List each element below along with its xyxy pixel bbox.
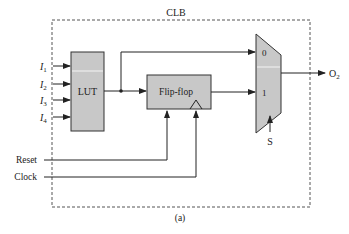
mux-block: 0 1 [256,34,281,133]
input-i3-label: I3 [39,95,47,108]
flipflop-label: Flip-flop [159,87,193,97]
figure-caption: (a) [175,213,186,224]
mux-input-0-label: 0 [262,48,267,58]
input-i1-label: I1 [39,61,47,74]
clock-label: Clock [14,172,37,182]
lut-label: LUT [78,86,97,97]
input-i2: I2 [39,79,70,92]
clb-title: CLB [166,7,186,18]
output-o2-label: O2 [329,68,340,81]
lut-block: LUT [71,52,104,131]
input-i4: I4 [39,112,70,125]
clb-diagram: CLB LUT I1 I2 I3 I4 Flip-flop 0 [0,0,349,234]
input-i3: I3 [39,95,70,108]
input-i4-label: I4 [39,112,47,125]
flipflop-block: Flip-flop [147,75,211,109]
input-i1: I1 [39,61,70,74]
select-label: S [267,136,273,147]
input-i2-label: I2 [39,79,47,92]
output-o2: O2 [281,68,340,81]
reset-label: Reset [16,155,37,165]
mux-input-1-label: 1 [262,88,267,98]
